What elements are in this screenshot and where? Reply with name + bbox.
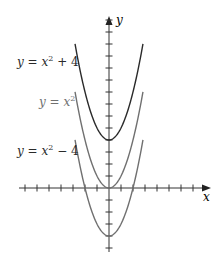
- parabola-shift-figure: x y y = x2 + 4 y = x2 y = x2 − 4: [0, 0, 221, 259]
- x-axis-label: x: [203, 190, 210, 204]
- curve-label-plus4: y = x2 + 4: [16, 54, 79, 69]
- curve-label-minus4: y = x2 − 4: [16, 143, 79, 158]
- y-axis-label: y: [115, 13, 123, 27]
- curve-label-base: y = x2: [38, 94, 75, 109]
